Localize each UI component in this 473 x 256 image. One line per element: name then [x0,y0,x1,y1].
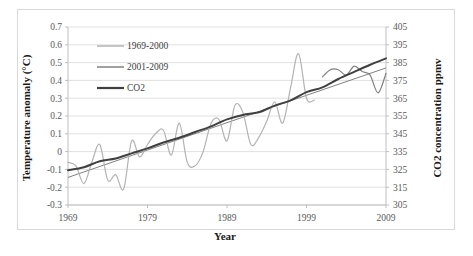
y2-axis-title: CO2 concentration ppmv [431,58,443,178]
y2-tick-label: 305 [393,200,408,210]
trendline-path [68,68,386,177]
y-tick-label: 0.5 [50,58,62,68]
y2-tick-label: 345 [393,129,408,139]
legend-label: 2001-2009 [127,62,168,72]
y-axis-title: Temperature anomaly (°C) [20,54,33,181]
series-path-co2 [68,58,386,170]
y2-tick-label: 315 [393,183,408,193]
y-tick-label: 0.4 [50,76,62,86]
climate-chart: 0.70.60.50.40.30.20.10-0.1-0.2-0.3 40539… [0,0,473,256]
y2-tick-label: 375 [393,76,408,86]
legend-label: 1969-2000 [127,41,168,51]
y-tick-label: -0.1 [47,165,62,175]
y-tick-label: -0.2 [47,183,62,193]
y-tick-label: 0.2 [50,111,62,121]
x-tick-label: 1999 [297,213,316,223]
x-tick-label: 2009 [377,213,396,223]
chart-legend: 1969-20002001-2009CO2 [97,41,168,93]
x-axis-tick-labels: 19691979198919992009 [59,205,396,223]
y-tick-label: 0.1 [50,129,62,139]
y2-tick-label: 325 [393,165,408,175]
y-tick-label: 0.6 [50,40,62,50]
y-axis-tick-labels: 0.70.60.50.40.30.20.10-0.1-0.2-0.3 [47,22,68,210]
y-tick-label: -0.3 [47,200,62,210]
x-tick-label: 1989 [218,213,237,223]
x-axis-title: Year [214,230,236,242]
y-tick-label: 0.3 [50,94,62,104]
y-tick-label: 0.7 [50,22,62,32]
gridlines [68,27,386,205]
legend-label: CO2 [127,83,145,93]
y2-tick-label: 365 [393,94,408,104]
x-tick-label: 1969 [59,213,78,223]
x-tick-label: 1979 [138,213,157,223]
y2-tick-label: 355 [393,111,408,121]
y2-tick-label: 385 [393,58,408,68]
y2-tick-label: 405 [393,22,408,32]
y-tick-label: 0 [57,147,62,157]
y2-axis-tick-labels: 405395385375365355345335325315305 [386,22,408,210]
y2-tick-label: 395 [393,40,408,50]
y2-tick-label: 335 [393,147,408,157]
series-path-2001-2009 [322,66,386,93]
